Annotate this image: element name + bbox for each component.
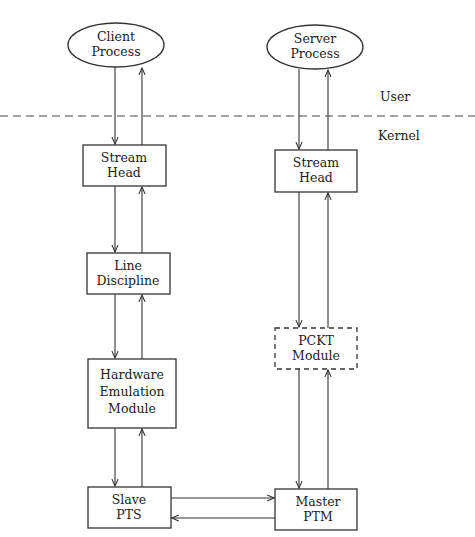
master-ptm-label-1: Master xyxy=(295,494,340,509)
server-stream-head-node: Stream Head xyxy=(275,150,357,192)
client-process-label-1: Client xyxy=(97,29,135,44)
client-process-node: Client Process xyxy=(68,23,164,67)
server-stream-head-label-1: Stream xyxy=(293,155,339,170)
pseudo-terminal-stream-diagram: User Kernel Client Process Server Proces… xyxy=(0,0,475,537)
server-stream-head-label-2: Head xyxy=(299,170,333,185)
pckt-module-node: PCKT Module xyxy=(275,328,357,369)
server-process-label-1: Server xyxy=(294,31,336,46)
server-process-label-2: Process xyxy=(290,46,339,61)
pckt-module-label-2: Module xyxy=(292,348,340,363)
slave-pts-label-1: Slave xyxy=(112,492,146,507)
user-region-label: User xyxy=(380,89,410,104)
pts-ptm-arrows xyxy=(171,498,275,518)
line-discipline-label-1: Line xyxy=(114,258,142,273)
master-ptm-label-2: PTM xyxy=(303,509,333,524)
hw-emulation-label-2: Emulation xyxy=(99,384,164,399)
slave-pts-node: Slave PTS xyxy=(88,487,171,528)
slave-pts-label-2: PTS xyxy=(116,507,141,522)
pckt-module-label-1: PCKT xyxy=(298,333,334,348)
hardware-emulation-module-node: Hardware Emulation Module xyxy=(88,359,176,428)
hw-emulation-label-3: Module xyxy=(108,401,156,416)
line-discipline-node: Line Discipline xyxy=(87,253,170,294)
client-stream-head-label-2: Head xyxy=(107,165,141,180)
server-process-node: Server Process xyxy=(267,25,363,69)
client-stream-head-node: Stream Head xyxy=(83,145,166,186)
master-ptm-node: Master PTM xyxy=(275,489,357,530)
hw-emulation-label-1: Hardware xyxy=(100,367,164,382)
server-side-arrows xyxy=(299,69,328,489)
client-process-label-2: Process xyxy=(91,44,140,59)
client-stream-head-label-1: Stream xyxy=(101,150,147,165)
line-discipline-label-2: Discipline xyxy=(97,273,160,288)
kernel-region-label: Kernel xyxy=(378,128,420,143)
